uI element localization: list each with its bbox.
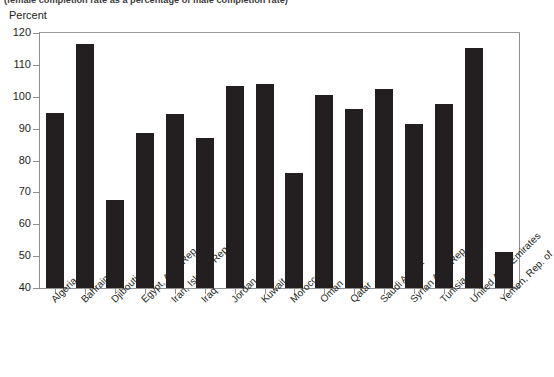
y-axis-tick-label: 40 bbox=[0, 282, 31, 293]
chart-subtitle-clipped: (female completion rate as a percentage … bbox=[4, 0, 404, 6]
y-axis-tick-label-text: 60 bbox=[3, 218, 31, 229]
y-axis-tick-label-text: 40 bbox=[3, 282, 31, 293]
bar bbox=[226, 86, 244, 288]
y-axis-tick-label-text: 90 bbox=[3, 123, 31, 134]
y-axis-tick-label-text: 70 bbox=[3, 186, 31, 197]
bar bbox=[315, 95, 333, 288]
y-axis-tick-label: 80 bbox=[0, 155, 31, 166]
bar bbox=[46, 113, 64, 288]
bar bbox=[106, 200, 124, 288]
y-axis-tick-label: 70 bbox=[0, 186, 31, 197]
bar bbox=[345, 109, 363, 288]
y-axis-tick-label: 110 bbox=[0, 59, 31, 70]
y-axis-tick bbox=[33, 161, 39, 162]
y-axis-tick-label-text: 80 bbox=[3, 155, 31, 166]
y-axis-tick-label-text: 50 bbox=[3, 250, 31, 261]
y-axis-tick bbox=[33, 33, 39, 34]
y-axis-tick-label: 90 bbox=[0, 123, 31, 134]
y-axis-tick bbox=[33, 192, 39, 193]
y-axis-tick-label: 100 bbox=[0, 91, 31, 102]
y-axis-tick-label-text: 110 bbox=[3, 59, 31, 70]
y-axis-tick-label: 50 bbox=[0, 250, 31, 261]
y-axis-title: Percent bbox=[9, 9, 47, 22]
y-axis-tick bbox=[33, 65, 39, 66]
bar bbox=[375, 89, 393, 288]
bar bbox=[256, 84, 274, 288]
y-axis-tick-label-text: 120 bbox=[3, 27, 31, 38]
bar bbox=[285, 173, 303, 288]
y-axis-tick-label-text: 100 bbox=[3, 91, 31, 102]
y-axis-tick bbox=[33, 129, 39, 130]
y-axis-tick bbox=[33, 256, 39, 257]
y-axis-tick-label: 120 bbox=[0, 27, 31, 38]
y-axis-tick bbox=[33, 288, 39, 289]
y-axis-tick bbox=[33, 97, 39, 98]
y-axis-tick bbox=[33, 224, 39, 225]
chart-subtitle-text: (female completion rate as a percentage … bbox=[4, 0, 404, 6]
y-axis-tick-label: 60 bbox=[0, 218, 31, 229]
bar bbox=[76, 44, 94, 288]
bar bbox=[136, 133, 154, 288]
